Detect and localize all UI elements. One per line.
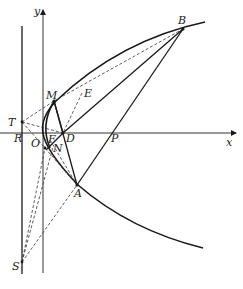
dashed-e-d	[63, 93, 82, 133]
label-t: T	[8, 116, 17, 129]
label-b: B	[177, 14, 186, 27]
point-d	[61, 131, 64, 134]
label-r: R	[13, 132, 22, 145]
parabola-diagram: y x B M E T R O F D N P A S	[0, 0, 243, 289]
dashed-s-a	[22, 185, 77, 262]
dashed-s-n1	[22, 148, 45, 262]
label-d: D	[65, 132, 75, 145]
dashed-m-b	[54, 29, 183, 101]
point-b	[181, 27, 184, 30]
point-t	[21, 121, 24, 124]
dashed-s-n2	[22, 147, 53, 262]
label-s: S	[12, 260, 20, 273]
point-n	[44, 147, 47, 150]
label-y-axis: y	[33, 5, 41, 18]
label-a: A	[73, 187, 82, 200]
label-e: E	[83, 87, 92, 100]
label-m: M	[45, 89, 58, 102]
label-p: P	[110, 132, 119, 145]
point-s	[21, 261, 24, 264]
label-x-axis: x	[226, 136, 233, 149]
label-n: N	[52, 142, 63, 155]
label-o: O	[31, 137, 40, 150]
